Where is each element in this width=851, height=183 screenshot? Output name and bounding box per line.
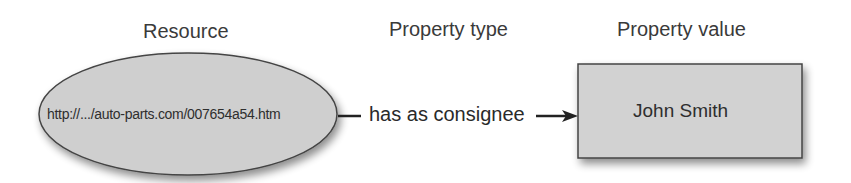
value-text: John Smith [633,100,728,122]
header-property-type: Property type [389,18,508,41]
header-property-value: Property value [617,18,746,41]
edge-label: has as consignee [369,103,525,126]
resource-uri: http://.../auto-parts.com/007654a54.htm [47,106,280,122]
header-resource: Resource [143,20,229,43]
